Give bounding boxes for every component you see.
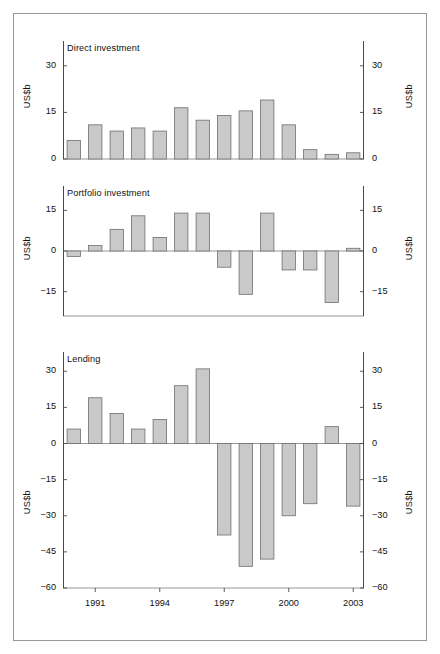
bar-1997 bbox=[218, 116, 231, 159]
bar-1996 bbox=[196, 369, 209, 444]
panel-0-ytick-right-30: 30 bbox=[372, 60, 405, 70]
bar-1998 bbox=[239, 111, 252, 159]
panel-0-ytick-right-0: 0 bbox=[372, 153, 405, 163]
panel-1-plot bbox=[63, 186, 364, 316]
x-tick-1994: 1994 bbox=[140, 598, 180, 608]
x-tick-1991: 1991 bbox=[75, 598, 115, 608]
bar-1997 bbox=[218, 444, 231, 536]
bar-2002 bbox=[325, 427, 338, 444]
bar-1998 bbox=[239, 444, 252, 567]
panel-1-ytick-right--15: −15 bbox=[372, 286, 405, 296]
bar-2000 bbox=[282, 251, 295, 270]
bar-2000 bbox=[282, 444, 295, 516]
bar-2002 bbox=[325, 251, 338, 302]
bar-2001 bbox=[304, 444, 317, 504]
panel-2-ytick-left-0: 0 bbox=[23, 438, 56, 448]
bar-1999 bbox=[261, 444, 274, 560]
bar-2003 bbox=[347, 153, 360, 159]
bar-1990 bbox=[67, 140, 80, 159]
bar-1994 bbox=[153, 131, 166, 159]
panel-1-ytick-right-0: 0 bbox=[372, 245, 405, 255]
panel-2-ytick-right-15: 15 bbox=[372, 401, 405, 411]
bar-1995 bbox=[175, 386, 188, 444]
panel-2-ylabel-right: US$b bbox=[404, 490, 414, 514]
panel-1-ytick-left-15: 15 bbox=[23, 204, 56, 214]
bar-1996 bbox=[196, 213, 209, 251]
bar-1992 bbox=[110, 413, 123, 443]
bar-2002 bbox=[325, 154, 338, 159]
panel-0-ytick-left-0: 0 bbox=[23, 153, 56, 163]
bar-1993 bbox=[132, 216, 145, 251]
panel-2-ytick-right-0: 0 bbox=[372, 438, 405, 448]
panel-0-ytick-left-30: 30 bbox=[23, 60, 56, 70]
bar-1991 bbox=[89, 246, 102, 251]
x-tick-2003: 2003 bbox=[333, 598, 373, 608]
panel-2-ytick-left--45: −45 bbox=[23, 546, 56, 556]
bar-1990 bbox=[67, 429, 80, 443]
x-tick-2000: 2000 bbox=[269, 598, 309, 608]
panel-1-ytick-left--15: −15 bbox=[23, 286, 56, 296]
chart-figure: Direct investment US$b US$b 01530 01530 … bbox=[0, 0, 440, 654]
panel-1-ytick-left-0: 0 bbox=[23, 245, 56, 255]
bar-2000 bbox=[282, 125, 295, 159]
bar-1999 bbox=[261, 213, 274, 251]
bar-1992 bbox=[110, 229, 123, 251]
panel-0-plot bbox=[63, 41, 364, 159]
bar-1991 bbox=[89, 125, 102, 159]
bar-1999 bbox=[261, 100, 274, 159]
bar-1996 bbox=[196, 120, 209, 159]
panel-1-ytick-right-15: 15 bbox=[372, 204, 405, 214]
panel-2-ytick-left--60: −60 bbox=[23, 582, 56, 592]
panel-2-ytick-left-15: 15 bbox=[23, 401, 56, 411]
panel-direct-investment: Direct investment bbox=[63, 41, 364, 159]
bar-1997 bbox=[218, 251, 231, 267]
panel-2-ytick-right--15: −15 bbox=[372, 474, 405, 484]
panel-0-ytick-right-15: 15 bbox=[372, 106, 405, 116]
bar-1990 bbox=[67, 251, 80, 256]
bar-2003 bbox=[347, 248, 360, 251]
x-tick-1997: 1997 bbox=[204, 598, 244, 608]
panel-2-plot bbox=[63, 352, 364, 588]
bar-1995 bbox=[175, 213, 188, 251]
bar-1998 bbox=[239, 251, 252, 294]
panel-portfolio-investment: Portfolio investment bbox=[63, 186, 364, 316]
bar-1993 bbox=[132, 128, 145, 159]
panel-0-ytick-left-15: 15 bbox=[23, 106, 56, 116]
bar-1994 bbox=[153, 419, 166, 443]
bar-1991 bbox=[89, 398, 102, 444]
panel-2-ytick-right--60: −60 bbox=[372, 582, 405, 592]
panel-1-ylabel-right: US$b bbox=[404, 236, 414, 260]
bar-2001 bbox=[304, 150, 317, 159]
bar-2001 bbox=[304, 251, 317, 270]
panel-2-ytick-right--30: −30 bbox=[372, 510, 405, 520]
bar-1993 bbox=[132, 429, 145, 443]
panel-lending: Lending bbox=[63, 352, 364, 588]
bar-1995 bbox=[175, 108, 188, 159]
panel-2-ytick-left--30: −30 bbox=[23, 510, 56, 520]
panel-2-ytick-right-30: 30 bbox=[372, 365, 405, 375]
panel-0-ylabel-left: US$b bbox=[22, 84, 32, 108]
panel-2-ytick-left--15: −15 bbox=[23, 474, 56, 484]
panel-2-ytick-right--45: −45 bbox=[372, 546, 405, 556]
bar-1994 bbox=[153, 237, 166, 251]
bar-1992 bbox=[110, 131, 123, 159]
bar-2003 bbox=[347, 444, 360, 507]
panel-0-ylabel-right: US$b bbox=[404, 84, 414, 108]
panel-2-ytick-left-30: 30 bbox=[23, 365, 56, 375]
